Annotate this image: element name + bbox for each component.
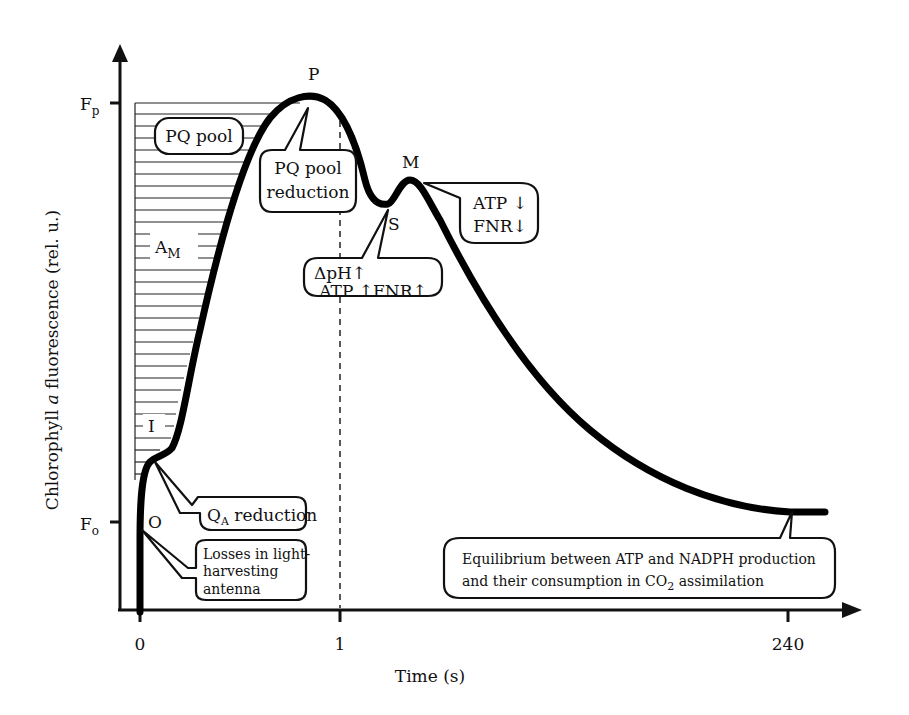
y-tick-fp: Fp xyxy=(80,94,100,118)
callout-equilibrium: Equilibrium between ATP and NADPH produc… xyxy=(444,512,835,598)
svg-text:ΔpH↑: ΔpH↑ xyxy=(314,263,366,283)
x-tick-1: 1 xyxy=(335,634,346,654)
svg-text:FNR↓: FNR↓ xyxy=(473,216,527,236)
point-label-s: S xyxy=(388,214,400,234)
svg-text:I: I xyxy=(148,416,155,436)
callout-pq-pool: PQ pool xyxy=(155,118,243,154)
point-label-o: O xyxy=(148,512,162,532)
x-axis-label: Time (s) xyxy=(395,666,465,686)
svg-text:reduction: reduction xyxy=(267,182,350,202)
svg-text:PQ pool: PQ pool xyxy=(274,158,342,178)
fluorescence-curve xyxy=(140,96,825,612)
am-label: AM xyxy=(150,233,198,261)
y-axis-label: Chlorophyll a fluorescence (rel. u.) xyxy=(42,210,62,510)
svg-text:ATP ↓: ATP ↓ xyxy=(472,193,527,213)
point-label-p: P xyxy=(308,64,319,84)
callout-losses-antenna: Losses in light- harvesting antenna xyxy=(142,530,311,600)
svg-text:Equilibrium between ATP and NA: Equilibrium between ATP and NADPH produc… xyxy=(462,551,816,567)
svg-text:PQ pool: PQ pool xyxy=(165,126,233,146)
svg-text:antenna: antenna xyxy=(203,581,261,597)
callout-qa-reduction: QA reduction xyxy=(155,462,317,530)
point-label-i: I xyxy=(143,414,165,436)
callout-dph-atp-fnr-up: ΔpH↑ ATP ↑FNR↑ xyxy=(304,210,442,301)
svg-text:harvesting: harvesting xyxy=(203,563,279,579)
y-axis xyxy=(110,44,128,610)
point-label-m: M xyxy=(402,152,419,172)
x-axis xyxy=(118,602,862,622)
x-tick-240: 240 xyxy=(772,634,804,654)
callout-atp-fnr-down: ATP ↓ FNR↓ xyxy=(424,183,538,243)
y-tick-fo: Fo xyxy=(80,514,99,538)
svg-text:ATP ↑FNR↑: ATP ↑FNR↑ xyxy=(318,281,427,301)
svg-text:Losses in light-: Losses in light- xyxy=(203,546,311,562)
x-tick-0: 0 xyxy=(135,634,146,654)
fluorescence-induction-diagram: Chlorophyll a fluorescence (rel. u.) Fp … xyxy=(0,0,909,715)
